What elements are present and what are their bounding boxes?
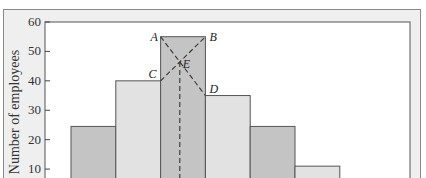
y-tick-label-40: 40 <box>28 73 41 88</box>
label-c: C <box>149 67 158 81</box>
bar-6 <box>295 166 340 178</box>
bar-5 <box>250 126 295 178</box>
y-tick-label-30: 30 <box>28 102 41 117</box>
bar-1 <box>71 126 116 178</box>
bar-2 <box>116 81 161 178</box>
label-b: B <box>209 30 217 44</box>
y-tick-label-20: 20 <box>28 132 41 147</box>
label-d: D <box>208 82 218 96</box>
label-a: A <box>150 30 159 44</box>
label-e: E <box>182 57 191 71</box>
bar-4 <box>205 96 250 178</box>
y-axis-title: Number of employees <box>7 50 22 174</box>
y-tick-label-60: 60 <box>28 14 41 29</box>
histogram-chart: 102030405060Number of employeesABCDE <box>0 0 426 178</box>
y-tick-label-10: 10 <box>28 161 41 176</box>
y-tick-label-50: 50 <box>28 43 41 58</box>
